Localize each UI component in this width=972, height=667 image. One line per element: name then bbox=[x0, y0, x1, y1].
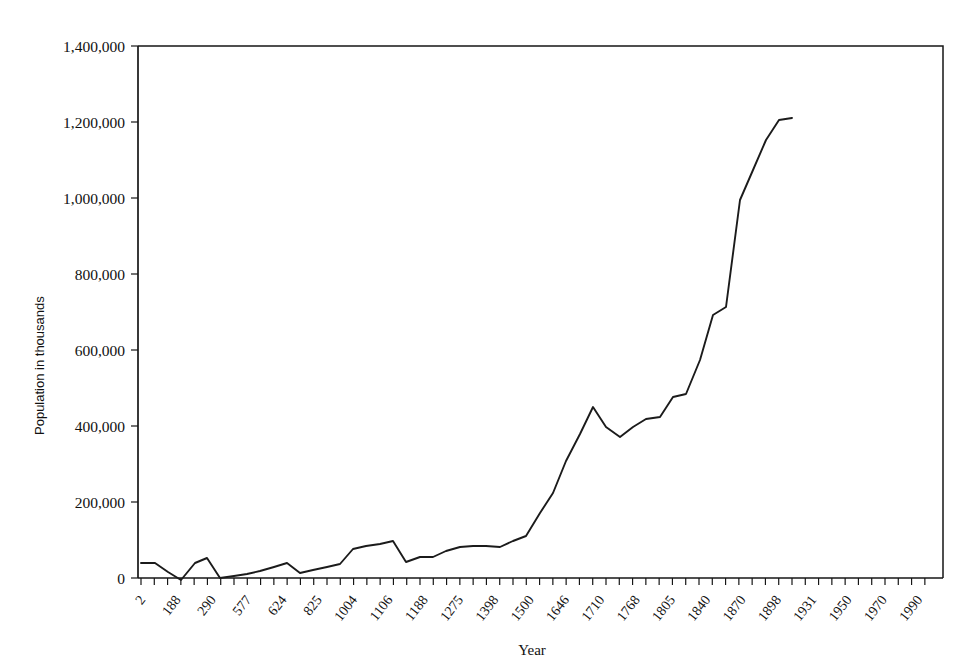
x-tick-label: 1898 bbox=[755, 593, 784, 624]
population-line-chart: 1,400,0001,200,0001,000,000800,000600,00… bbox=[0, 0, 972, 667]
x-tick-label: 1970 bbox=[861, 593, 890, 624]
y-tick-label: 400,000 bbox=[75, 418, 126, 435]
x-tick-label: 825 bbox=[300, 593, 325, 619]
series-group bbox=[141, 118, 792, 580]
x-tick-label: 577 bbox=[230, 593, 255, 619]
chart-container: 1,400,0001,200,0001,000,000800,000600,00… bbox=[0, 0, 972, 667]
x-tick-label: 290 bbox=[194, 593, 219, 619]
x-tick-label: 2 bbox=[132, 593, 148, 608]
x-tick-label: 624 bbox=[265, 593, 290, 619]
x-tick-label: 1398 bbox=[472, 593, 501, 624]
x-axis-title: Year bbox=[518, 642, 546, 658]
plot-frame bbox=[138, 46, 943, 578]
y-tick-label: 800,000 bbox=[75, 266, 126, 283]
x-tick-label: 1646 bbox=[543, 593, 572, 624]
y-tick-label: 0 bbox=[117, 570, 125, 587]
y-tick-label: 1,000,000 bbox=[63, 190, 125, 207]
x-axis-tick-labels: 2188290577624825100411061188127513981500… bbox=[132, 593, 925, 624]
x-tick-label: 1870 bbox=[720, 593, 749, 624]
y-tick-label: 1,200,000 bbox=[63, 114, 125, 131]
x-tick-label: 1768 bbox=[614, 593, 643, 624]
x-tick-label: 1106 bbox=[367, 593, 396, 624]
x-tick-label: 1840 bbox=[684, 593, 713, 624]
y-axis-ticks: 1,400,0001,200,0001,000,000800,000600,00… bbox=[63, 38, 138, 587]
series-line-world-population bbox=[141, 118, 792, 580]
x-tick-label: 1188 bbox=[402, 593, 431, 624]
x-tick-label: 1710 bbox=[578, 593, 607, 624]
x-tick-label: 1004 bbox=[331, 593, 360, 624]
y-tick-label: 200,000 bbox=[75, 494, 126, 511]
x-tick-label: 1805 bbox=[649, 593, 678, 624]
x-tick-label: 1950 bbox=[826, 593, 855, 624]
x-tick-label: 1500 bbox=[508, 593, 537, 624]
x-tick-label: 1275 bbox=[437, 593, 466, 624]
y-tick-label: 600,000 bbox=[75, 342, 126, 359]
y-tick-label: 1,400,000 bbox=[63, 38, 125, 55]
x-tick-label: 188 bbox=[159, 593, 184, 619]
x-tick-label: 1990 bbox=[896, 593, 925, 624]
frame-top-right bbox=[138, 46, 943, 578]
x-tick-label: 1931 bbox=[790, 593, 819, 624]
x-axis-ticks bbox=[141, 578, 925, 585]
y-axis-title: Population in thousands bbox=[32, 296, 47, 435]
